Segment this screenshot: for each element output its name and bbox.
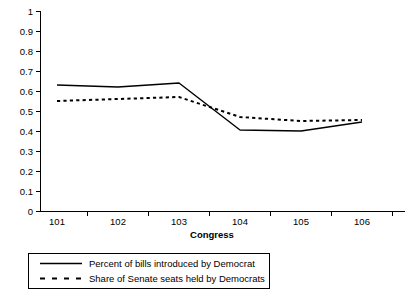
y-tick-label: 0.7 (20, 66, 33, 77)
x-tick-label: 104 (232, 216, 248, 227)
y-tick-label: 0.2 (20, 166, 33, 177)
y-tick-label: 0.5 (20, 106, 33, 117)
x-tick-labels: 101 102 103 104 105 106 (49, 216, 370, 227)
x-axis-title: Congress (190, 229, 234, 240)
y-tick-marks (36, 12, 41, 212)
series-line-bills-introduced (57, 83, 362, 131)
y-tick-labels: 1 0.9 0.8 0.7 0.6 0.5 0.4 0.3 0.2 0.1 0 (20, 6, 33, 217)
y-tick-label: 0.3 (20, 146, 33, 157)
legend-label-senate-seats: Share of Senate seats held by Democrats (89, 273, 265, 284)
x-tick-label: 102 (110, 216, 126, 227)
chart-canvas: 1 0.9 0.8 0.7 0.6 0.5 0.4 0.3 0.2 0.1 0 … (0, 0, 411, 292)
y-tick-label: 0.4 (20, 126, 33, 137)
y-tick-label: 0.1 (20, 186, 33, 197)
y-tick-label: 0 (28, 206, 33, 217)
legend: Percent of bills introduced by Democrat … (29, 254, 270, 289)
legend-label-bills-introduced: Percent of bills introduced by Democrat (89, 258, 255, 269)
x-tick-label: 105 (293, 216, 309, 227)
y-tick-label: 0.9 (20, 26, 33, 37)
y-tick-label: 0.6 (20, 86, 33, 97)
y-tick-label: 1 (28, 6, 33, 17)
line-chart: 1 0.9 0.8 0.7 0.6 0.5 0.4 0.3 0.2 0.1 0 … (0, 0, 411, 292)
y-tick-label: 0.8 (20, 46, 33, 57)
series-line-senate-seats (57, 97, 362, 121)
x-tick-label: 103 (171, 216, 187, 227)
x-tick-label: 101 (49, 216, 65, 227)
x-tick-label: 106 (354, 216, 370, 227)
